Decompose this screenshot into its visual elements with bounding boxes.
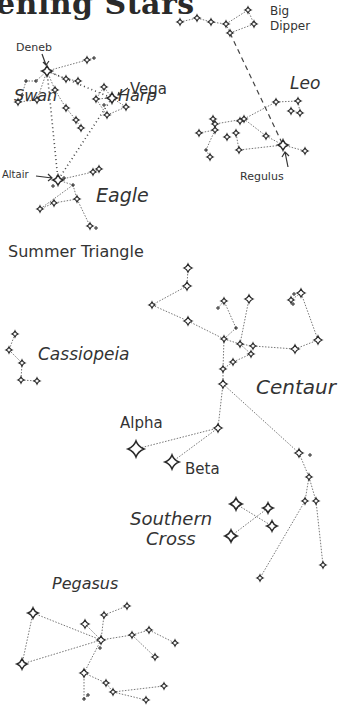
leo-star-icon xyxy=(196,130,202,136)
centaur-star-icon xyxy=(214,424,222,432)
centaur-star-icon xyxy=(245,295,253,303)
harp-star-icon xyxy=(102,103,106,107)
harp-star-icon xyxy=(93,96,99,102)
centaur-star-icon xyxy=(320,562,326,568)
label-big-dipper-2: Dipper xyxy=(270,20,310,32)
southern-cross-star-icon xyxy=(225,530,237,542)
centaur-star-icon xyxy=(306,474,312,480)
eagle-star-icon xyxy=(96,166,102,172)
centaur-line xyxy=(240,299,249,344)
swan-star-icon xyxy=(63,105,69,111)
label-summer-triangle: Summer Triangle xyxy=(8,244,144,260)
pegasus-star-icon xyxy=(172,640,178,646)
centaur-line xyxy=(295,340,318,349)
label-swan: Swan xyxy=(14,88,57,104)
southern-cross-star-icon xyxy=(267,521,277,531)
centaur-star-icon xyxy=(302,498,308,504)
eagle-line xyxy=(77,199,90,226)
swan-star-icon xyxy=(92,56,96,60)
centaur-line xyxy=(309,477,316,501)
eagle-star-icon xyxy=(74,196,80,202)
pegasus-line xyxy=(101,635,132,640)
cassiopeia-star-icon xyxy=(12,331,18,337)
centaur-star-icon xyxy=(248,351,254,357)
centaur-star-icon xyxy=(297,289,305,297)
label-regulus: Regulus xyxy=(240,171,284,182)
pegasus-star-icon xyxy=(161,683,167,689)
eagle-star-icon xyxy=(94,226,98,230)
centaur-star-icon xyxy=(313,498,319,504)
pegasus-line xyxy=(84,673,106,683)
cassiopeia-star-icon xyxy=(18,377,24,383)
centaur-star-icon xyxy=(295,449,303,457)
big-dipper-line xyxy=(226,10,248,24)
pegasus-star-icon xyxy=(17,659,27,669)
label-eagle: Eagle xyxy=(96,186,149,205)
centaur-star-icon xyxy=(221,336,227,342)
centaur-star-icon xyxy=(257,575,263,581)
centaur-line xyxy=(224,301,236,328)
swan-star-icon xyxy=(78,125,84,131)
centaur-line xyxy=(301,293,318,340)
label-southern-cross-2: Cross xyxy=(146,530,196,548)
southern-cross-star-icon xyxy=(230,498,242,510)
centaur-star-icon xyxy=(308,453,312,457)
leo-star-icon xyxy=(295,98,301,104)
cassiopeia-line xyxy=(9,350,22,363)
eagle-star-icon xyxy=(87,223,93,229)
eagle-star-icon xyxy=(90,169,96,175)
swan-star-icon xyxy=(63,76,69,82)
leo-line xyxy=(206,130,215,150)
leo-star-icon xyxy=(207,154,213,160)
centaur-star-icon xyxy=(292,292,296,296)
pegasus-star-icon xyxy=(129,632,135,638)
cassiopeia-star-icon xyxy=(6,347,12,353)
leo-star-icon xyxy=(212,127,218,133)
label-pegasus: Pegasus xyxy=(52,576,118,592)
pegasus-line xyxy=(104,606,127,615)
leo-star-icon xyxy=(263,133,269,139)
pegasus-star-icon xyxy=(152,654,158,660)
pegasus-line xyxy=(22,640,101,664)
alpha-beta-star-icon xyxy=(165,455,179,469)
label-harp: Harp xyxy=(118,88,157,104)
harp-line xyxy=(107,107,126,115)
pegasus-line xyxy=(85,624,101,640)
pegasus-star-icon xyxy=(80,669,88,677)
centaur-star-icon xyxy=(230,359,236,365)
pegasus-star-icon xyxy=(101,612,107,618)
centaur-star-icon xyxy=(237,341,243,347)
eagle-line xyxy=(58,172,93,180)
centaur-line xyxy=(152,286,187,305)
swan-star-icon xyxy=(42,66,52,76)
leo-star-icon xyxy=(302,148,308,154)
pegasus-line xyxy=(84,640,101,673)
leo-star-icon xyxy=(236,147,242,153)
pegasus-line xyxy=(84,695,88,699)
centaur-line xyxy=(188,321,224,339)
centaur-star-icon xyxy=(183,282,191,290)
pegasus-star-icon xyxy=(82,697,86,701)
swan-line xyxy=(47,60,87,71)
centaur-line xyxy=(253,346,295,349)
leo-star-icon xyxy=(288,108,294,114)
big-dipper-star-icon xyxy=(208,19,214,25)
eagle-star-icon xyxy=(71,183,75,187)
centaur-star-icon xyxy=(184,317,192,325)
centaur-line xyxy=(299,453,309,477)
centaur-line xyxy=(305,477,309,501)
deneb-arrow-icon xyxy=(42,54,49,65)
eagle-star-icon xyxy=(37,206,43,212)
centaur-star-icon xyxy=(220,366,226,372)
leo-star-icon xyxy=(273,99,279,105)
pegasus-star-icon xyxy=(143,697,149,703)
big-dipper-star-icon xyxy=(245,7,251,13)
leo-star-icon xyxy=(233,130,239,136)
alpha-beta-star-icon xyxy=(128,441,144,457)
regulus-arrow-icon xyxy=(282,152,289,167)
leo-star-icon xyxy=(278,140,288,150)
centaur-star-icon xyxy=(221,298,227,304)
eagle-star-icon xyxy=(53,175,63,185)
leo-star-icon xyxy=(204,148,208,152)
centaur-line xyxy=(233,354,251,362)
